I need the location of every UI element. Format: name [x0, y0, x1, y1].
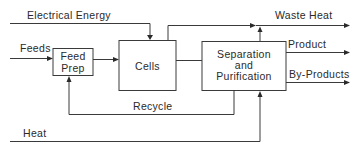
arrow-up-icon	[258, 91, 263, 97]
cells-waste-heat-flow	[168, 26, 250, 41]
arrow-right-icon	[250, 23, 256, 28]
arrow-right-icon	[113, 57, 119, 62]
arrow-right-icon	[344, 23, 350, 28]
heat-flow: Heat	[10, 91, 263, 142]
feed-prep-label-line2: Prep	[61, 62, 84, 74]
cells-box: Cells	[119, 41, 176, 91]
product-flow: Product	[286, 38, 350, 55]
feed-prep-label-line1: Feed	[60, 50, 85, 62]
arrow-right-icon	[344, 50, 350, 55]
separation-purification-box: Separation and Purification	[202, 42, 286, 91]
prep-to-cells-flow	[93, 57, 119, 62]
by-products-label: By-Products	[289, 68, 350, 80]
arrow-up-icon	[67, 76, 72, 82]
recycle-label: Recycle	[133, 100, 172, 112]
electrical-energy-label: Electrical Energy	[27, 9, 111, 21]
process-flow-diagram: Electrical Energy Feeds Feed Prep Cells …	[0, 0, 359, 151]
feed-prep-box: Feed Prep	[53, 49, 93, 76]
waste-heat-flow: Waste Heat	[250, 9, 350, 41]
arrow-right-icon	[344, 80, 350, 85]
arrow-right-icon	[47, 56, 53, 61]
cells-label: Cells	[135, 60, 160, 72]
by-products-flow: By-Products	[286, 68, 350, 85]
electrical-energy-flow: Electrical Energy	[10, 9, 153, 40]
separation-label-line3: Purification	[216, 70, 272, 82]
waste-heat-label: Waste Heat	[275, 9, 332, 21]
heat-label: Heat	[23, 127, 46, 139]
arrow-down-icon	[147, 35, 153, 40]
arrow-up-icon	[258, 27, 263, 33]
feeds-flow: Feeds	[10, 42, 53, 61]
feeds-label: Feeds	[20, 42, 51, 54]
product-label: Product	[288, 38, 326, 50]
